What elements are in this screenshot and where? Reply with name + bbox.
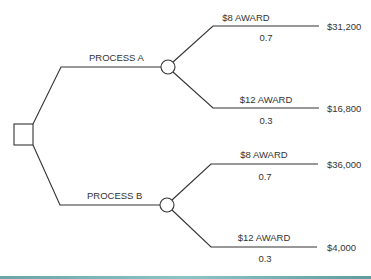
payoff-b2: $4,000 (327, 242, 356, 253)
payoff-a2: $16,800 (327, 103, 361, 114)
probability-a2: 0.3 (259, 115, 272, 126)
outcome-line-b1 (172, 164, 318, 200)
outcome-label-a2: $12 AWARD (240, 94, 293, 105)
probability-a1: 0.7 (259, 32, 272, 43)
outcome-label-b2: $12 AWARD (238, 232, 291, 243)
payoff-b1: $36,000 (327, 159, 361, 170)
outcome-label-a1: $8 AWARD (222, 12, 269, 23)
chance-node-b (160, 198, 174, 212)
outcome-line-a1 (173, 26, 319, 62)
probability-b2: 0.3 (258, 253, 271, 264)
probability-b1: 0.7 (258, 171, 271, 182)
branch-label-process-a: PROCESS A (89, 52, 145, 63)
decision-tree-diagram: PROCESS A PROCESS B $8 AWARD 0.7 $31,200… (0, 0, 371, 279)
branch-line-process-a (33, 67, 161, 124)
payoff-a1: $31,200 (327, 21, 361, 32)
branch-label-process-b: PROCESS B (87, 190, 142, 201)
outcome-label-b1: $8 AWARD (240, 149, 287, 160)
chance-node-a (161, 60, 175, 74)
decision-node (14, 124, 33, 145)
